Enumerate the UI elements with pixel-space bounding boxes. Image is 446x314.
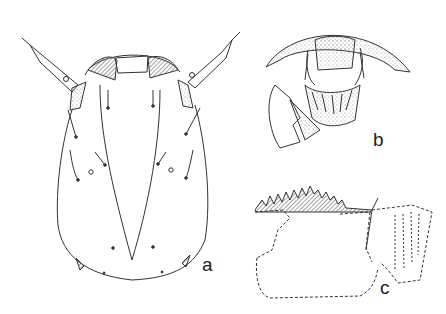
panel-label-c: c [380,278,390,297]
panel-label-b: b [373,130,384,149]
panel-label-a: a [202,255,213,274]
panel-c-mentum [255,186,432,298]
panel-a-head-capsule [22,32,240,280]
figure-canvas [0,0,446,314]
panel-b-frontal-view [266,35,410,148]
